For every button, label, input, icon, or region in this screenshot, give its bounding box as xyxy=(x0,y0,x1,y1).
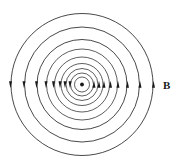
current-out-of-page-dot xyxy=(80,83,84,87)
field-direction-arrowhead xyxy=(23,81,26,88)
magnetic-field-figure: B xyxy=(0,0,179,166)
magnetic-field-label: B xyxy=(163,80,170,91)
field-direction-arrowhead xyxy=(117,81,120,88)
field-direction-arrowhead xyxy=(126,81,129,88)
field-direction-arrowhead xyxy=(9,81,12,88)
field-direction-arrowhead xyxy=(139,81,142,88)
field-direction-arrowhead xyxy=(45,81,48,88)
field-line-canvas xyxy=(0,0,179,166)
field-direction-arrowhead xyxy=(35,81,38,88)
field-direction-arrowhead xyxy=(152,81,155,88)
